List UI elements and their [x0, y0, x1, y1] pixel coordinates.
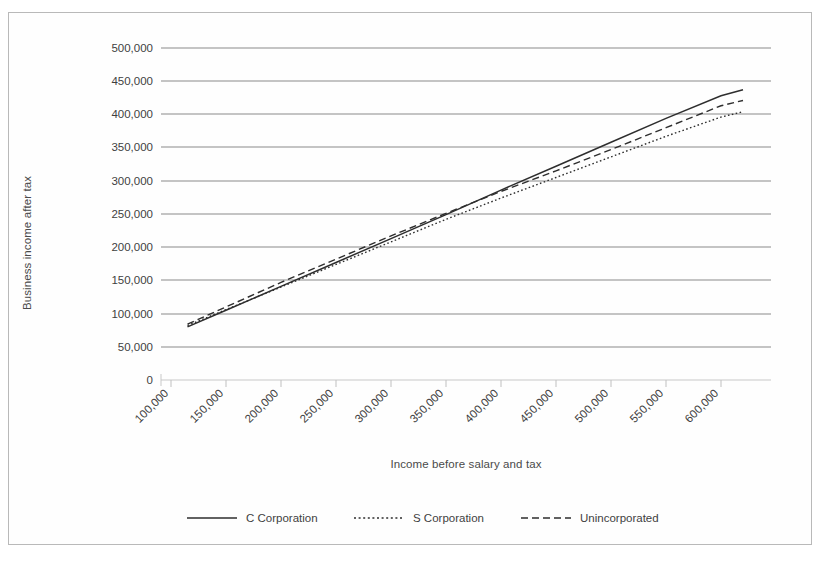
y-tick-label: 350,000 [111, 141, 153, 153]
horizontal-gridlines [161, 48, 771, 347]
y-tick-label: 100,000 [111, 308, 153, 320]
x-tick-label: 550,000 [628, 387, 666, 425]
x-tick-label: 250,000 [298, 387, 336, 425]
x-tick-label: 600,000 [683, 387, 721, 425]
chart-legend: C Corporation S Corporation Unincorporat… [187, 512, 659, 524]
line-chart: Business income after tax 500,000 450,00… [9, 13, 813, 546]
chart-frame: Business income after tax 500,000 450,00… [8, 12, 812, 545]
y-tick-label: 450,000 [111, 75, 153, 87]
x-tick-label: 350,000 [408, 387, 446, 425]
x-axis-tickmarks [171, 380, 721, 387]
y-axis-tick-labels: 500,000 450,000 400,000 350,000 300,000 … [111, 42, 153, 386]
x-tick-label: 300,000 [353, 387, 391, 425]
x-tick-label: 450,000 [518, 387, 556, 425]
x-tick-label: 200,000 [243, 387, 281, 425]
data-series-group [188, 90, 744, 327]
y-tick-label: 50,000 [118, 341, 153, 353]
x-tick-label: 100,000 [133, 387, 171, 425]
y-axis-title: Business income after tax [21, 176, 33, 310]
y-tick-label: 500,000 [111, 42, 153, 54]
y-tick-label: 400,000 [111, 108, 153, 120]
y-tick-label: 300,000 [111, 175, 153, 187]
legend-label-c-corporation[interactable]: C Corporation [246, 512, 318, 524]
y-tick-label: 0 [147, 374, 153, 386]
y-tick-label: 150,000 [111, 274, 153, 286]
y-tick-label: 250,000 [111, 208, 153, 220]
x-axis-title: Income before salary and tax [390, 458, 541, 470]
x-axis-tick-labels: 100,000 150,000 200,000 250,000 300,000 … [133, 387, 721, 425]
y-tick-label: 200,000 [111, 241, 153, 253]
series-line-c-corporation [188, 90, 744, 327]
x-tick-label: 150,000 [188, 387, 226, 425]
legend-label-s-corporation[interactable]: S Corporation [413, 512, 484, 524]
x-tick-label: 400,000 [463, 387, 501, 425]
x-tick-label: 500,000 [573, 387, 611, 425]
legend-label-unincorporated[interactable]: Unincorporated [580, 512, 659, 524]
series-line-s-corporation [188, 112, 744, 326]
